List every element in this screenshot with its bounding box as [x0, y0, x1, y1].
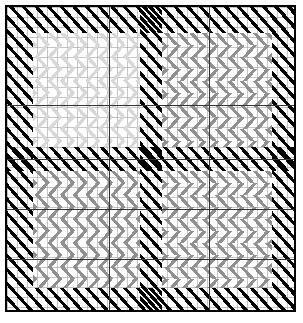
chevron-band: [33, 267, 140, 279]
chevron-band: [162, 33, 272, 45]
chevron-band: [33, 81, 140, 93]
region-block-bottom-right: [162, 171, 272, 288]
chevron-stack: [162, 33, 272, 147]
chevron-band: [162, 231, 272, 243]
chevron-band: [33, 171, 140, 183]
chevron-band: [162, 243, 272, 255]
chevron-band: [33, 93, 140, 105]
chevron-band: [162, 207, 272, 219]
chevron-band: [33, 129, 140, 141]
chevron-band: [162, 129, 272, 141]
chevron-band: [162, 255, 272, 267]
chevron-band: [162, 105, 272, 117]
chevron-band: [162, 279, 272, 288]
plot-box: [5, 5, 296, 312]
chevron-band: [33, 195, 140, 207]
chevron-band: [162, 45, 272, 57]
chevron-band: [33, 45, 140, 57]
chevron-band: [162, 117, 272, 129]
figure-root: [0, 0, 303, 323]
chevron-band: [33, 207, 140, 219]
chevron-band: [33, 141, 140, 147]
chevron-band: [162, 93, 272, 105]
chevron-band: [33, 69, 140, 81]
chevron-band: [162, 141, 272, 147]
chevron-band: [33, 279, 140, 288]
chevron-band: [162, 57, 272, 69]
region-mid-band-horizontal: [7, 147, 296, 171]
chevron-band: [33, 117, 140, 129]
chevron-stack: [33, 33, 140, 147]
region-block-top-right: [162, 33, 272, 147]
hatch-regions: [7, 7, 294, 310]
chevron-band: [33, 183, 140, 195]
chevron-band: [162, 195, 272, 207]
region-block-top-left: [33, 33, 140, 147]
chevron-band: [33, 219, 140, 231]
chevron-band: [33, 255, 140, 267]
chevron-band: [33, 231, 140, 243]
chevron-band: [162, 171, 272, 183]
chevron-band: [33, 243, 140, 255]
chevron-band: [162, 183, 272, 195]
chevron-band: [162, 81, 272, 93]
chevron-band: [162, 219, 272, 231]
chevron-band: [162, 69, 272, 81]
chevron-band: [33, 33, 140, 45]
chevron-band: [33, 105, 140, 117]
chevron-band: [33, 57, 140, 69]
chevron-stack: [33, 171, 140, 288]
chevron-band: [162, 267, 272, 279]
region-block-bottom-left: [33, 171, 140, 288]
chevron-stack: [162, 171, 272, 288]
